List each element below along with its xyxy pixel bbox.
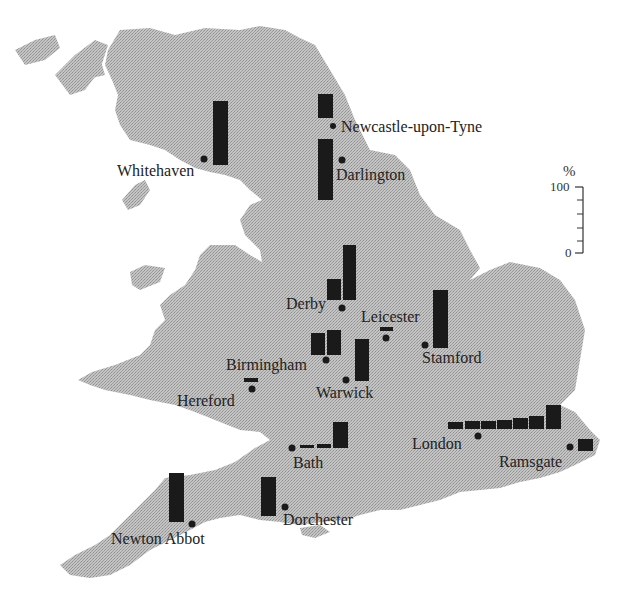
bar-newcastle-1	[318, 94, 333, 118]
bar-newton-abbot-1	[169, 473, 184, 522]
bar-derby-1	[327, 279, 341, 300]
island-west-1	[15, 35, 60, 65]
scale-min-label: 0	[565, 246, 572, 259]
scale-max-label: 100	[550, 180, 570, 193]
bar-stamford-1	[433, 290, 448, 348]
bar-darlington-1	[318, 139, 333, 200]
dot-dorchester	[282, 504, 289, 511]
bar-bath-3	[333, 422, 348, 448]
dot-newcastle	[330, 123, 336, 129]
dot-derby	[339, 305, 346, 312]
label-dorchester: Dorchester	[283, 512, 353, 528]
bar-london-3	[481, 421, 496, 429]
scale-bar	[575, 187, 583, 253]
bar-london-7	[546, 405, 561, 429]
bar-ramsgate-1	[578, 439, 593, 451]
anglesey	[130, 265, 165, 290]
label-darlington: Darlington	[336, 167, 405, 183]
dot-darlington	[339, 157, 346, 164]
dot-bath	[289, 445, 296, 452]
label-derby: Derby	[286, 296, 326, 312]
label-warwick: Warwick	[316, 385, 373, 401]
bar-birmingham-2	[327, 330, 341, 355]
bar-hereford-1	[244, 378, 258, 382]
bar-london-4	[497, 420, 512, 429]
label-hereford: Hereford	[177, 393, 235, 409]
bar-london-6	[529, 416, 544, 429]
label-bath: Bath	[293, 455, 323, 471]
dot-leicester	[383, 335, 390, 342]
label-whitehaven: Whitehaven	[117, 163, 194, 179]
dot-newton-abbot	[189, 521, 196, 528]
label-stamford: Stamford	[422, 350, 482, 366]
bar-bath-1	[300, 445, 314, 448]
label-leicester: Leicester	[361, 309, 420, 325]
bar-warwick-1	[355, 339, 369, 381]
scale-unit-label: %	[563, 164, 576, 179]
label-ramsgate: Ramsgate	[499, 454, 562, 470]
dot-birmingham	[323, 357, 330, 364]
dot-warwick	[343, 377, 350, 384]
isle-of-man	[122, 180, 150, 210]
bar-london-1	[448, 422, 463, 429]
label-newcastle: Newcastle-upon-Tyne	[341, 119, 482, 135]
bar-london-2	[465, 421, 480, 429]
dot-hereford	[249, 386, 256, 393]
dot-ramsgate	[567, 444, 574, 451]
bar-leicester-1	[380, 327, 393, 331]
dot-stamford	[422, 342, 429, 349]
dot-whitehaven	[201, 156, 208, 163]
bar-birmingham-1	[311, 333, 325, 355]
bar-london-5	[513, 418, 528, 429]
label-newton-abbot: Newton Abbot	[111, 531, 205, 547]
label-london: London	[412, 436, 462, 452]
dot-london	[475, 433, 482, 440]
bar-dorchester-1	[261, 477, 276, 516]
label-birmingham: Birmingham	[226, 357, 307, 373]
bar-whitehaven-1	[213, 101, 228, 165]
bar-bath-2	[317, 444, 331, 448]
bar-derby-2	[343, 245, 356, 300]
